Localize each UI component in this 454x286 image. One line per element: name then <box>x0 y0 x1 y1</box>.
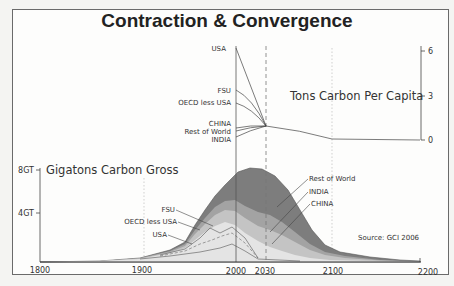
label-india-upper: INDIA <box>211 136 231 144</box>
label-fsu-lower: FSU <box>162 206 175 214</box>
label-usa-lower: USA <box>153 231 168 239</box>
ytick-8gt: 8GT <box>18 166 34 175</box>
label-rest-of-world-lower: Rest of World <box>309 175 356 183</box>
source-note: Source: GCI 2006 <box>358 234 420 242</box>
label-fsu-upper: FSU <box>218 87 231 95</box>
label-usa-upper: USA <box>212 45 227 53</box>
ytick-6: 6 <box>428 47 433 56</box>
ytick-3: 3 <box>428 92 433 101</box>
xtick-2200: 2200 <box>418 268 438 277</box>
upper-panel-title: Tons Carbon Per Capita <box>289 89 423 103</box>
label-oecd-lower: OECD less USA <box>124 218 177 226</box>
label-oecd-upper: OECD less USA <box>178 99 231 107</box>
label-india-lower: INDIA <box>309 188 329 196</box>
xtick-1800: 1800 <box>30 266 50 275</box>
chart-canvas: USA FSU OECD less USA CHINA Rest of Worl… <box>0 0 454 286</box>
ytick-0: 0 <box>428 136 433 145</box>
ytick-4gt: 4GT <box>18 209 34 218</box>
xtick-2100: 2100 <box>323 267 343 276</box>
lower-panel-title: Gigatons Carbon Gross <box>46 163 178 177</box>
xtick-2000: 2000 <box>226 267 246 276</box>
xtick-2030: 2030 <box>255 267 275 276</box>
label-rest-of-world-upper: Rest of World <box>184 128 231 136</box>
label-china-upper: CHINA <box>209 120 231 128</box>
xtick-1900: 1900 <box>132 266 152 275</box>
label-china-lower: CHINA <box>311 200 333 208</box>
